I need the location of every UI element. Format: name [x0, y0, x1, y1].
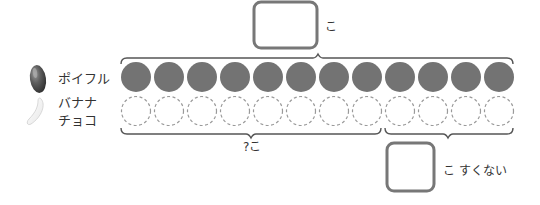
legend-label-banana-line1: バナナ — [58, 95, 97, 110]
comparison-diagram: ポイフル バナナ チョコ こ ?こ こ すくない — [0, 0, 540, 205]
bottom-right-label: こ すくない — [443, 164, 507, 179]
top-brace — [121, 54, 513, 64]
bottom-right-brace — [385, 128, 513, 138]
banana-choco-circle — [353, 97, 382, 126]
poiful-circle — [451, 62, 481, 92]
top-unit-label: こ — [325, 20, 337, 35]
banana-choco-circle — [155, 97, 184, 126]
banana-choco-circle — [452, 97, 481, 126]
banana-choco-circle — [485, 97, 514, 126]
poiful-circle — [121, 62, 151, 92]
banana-choco-circle — [188, 97, 217, 126]
poiful-row — [121, 62, 514, 92]
poiful-circle — [154, 62, 184, 92]
bottom-answer-box[interactable] — [387, 143, 434, 191]
banana-choco-circle — [221, 97, 250, 126]
poiful-circle — [187, 62, 217, 92]
banana-choco-circle — [254, 97, 283, 126]
poiful-circle — [352, 62, 382, 92]
poiful-circle — [418, 62, 448, 92]
top-answer-box[interactable] — [254, 2, 317, 48]
bottom-left-brace — [121, 128, 381, 138]
banana-choco-circle — [287, 97, 316, 126]
poiful-circle — [385, 62, 415, 92]
banana-choco-circle — [320, 97, 349, 126]
poiful-circle — [220, 62, 250, 92]
banana-choco-row — [122, 97, 514, 126]
white-bean-icon — [27, 98, 43, 125]
poiful-circle — [253, 62, 283, 92]
legend-label-banana-line2: チョコ — [58, 113, 97, 128]
poiful-circle — [319, 62, 349, 92]
banana-choco-circle — [386, 97, 415, 126]
banana-choco-circle — [419, 97, 448, 126]
dark-bean-icon — [28, 64, 48, 94]
poiful-circle — [286, 62, 316, 92]
poiful-circle — [484, 62, 514, 92]
bottom-left-label: ?こ — [243, 140, 261, 155]
banana-choco-circle — [122, 97, 151, 126]
legend-label-poiful: ポイフル — [58, 71, 110, 86]
